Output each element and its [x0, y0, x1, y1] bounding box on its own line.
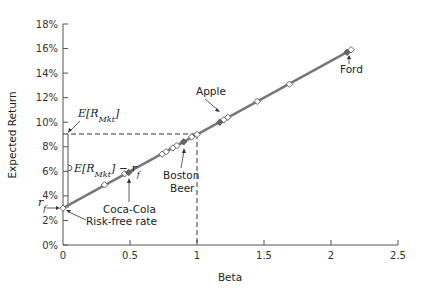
y-tick-label: 6%	[42, 166, 58, 177]
y-tick-label: 8%	[42, 141, 58, 152]
emkt-label: E[RMkt]	[77, 107, 120, 124]
y-tick-label: 14%	[36, 68, 58, 79]
boston-label-line2: Beer	[170, 182, 195, 194]
premium-label: E[RMkt] − rf	[73, 162, 142, 179]
risk-free-label: Risk-free rate	[86, 215, 157, 227]
y-tick-label: 16%	[36, 43, 58, 54]
x-tick-labels: 00.511.522.5	[60, 250, 406, 261]
boston-label-line1: Boston	[163, 169, 199, 181]
y-tick-label: 10%	[36, 117, 58, 128]
y-axis-label: Expected Return	[6, 91, 18, 178]
x-tick-label: 1	[194, 250, 200, 261]
y-tick-label: 4%	[42, 190, 58, 201]
ford-label: Ford	[340, 63, 363, 75]
y-tick-label: 0%	[42, 240, 58, 251]
x-axis-label: Beta	[218, 271, 242, 283]
x-tick-label: 2	[328, 250, 334, 261]
y-tick-labels: 0%2%4%6%8%10%12%14%16%18%	[36, 19, 58, 251]
y-tick-label: 2%	[42, 215, 58, 226]
premium-brace	[68, 165, 72, 171]
x-tick-label: 1.5	[256, 250, 272, 261]
coca-cola-label: Coca-Cola	[103, 203, 156, 215]
x-tick-label: 2.5	[390, 250, 406, 261]
annotation-market-premium: E[RMkt] − rf	[73, 162, 142, 179]
annotation-boston-beer: Boston Beer	[163, 148, 199, 194]
x-tick-label: 0	[60, 250, 66, 261]
y-tick-label: 18%	[36, 19, 58, 30]
security-market-line-chart: 0%2%4%6%8%10%12%14%16%18% 00.511.522.5 E…	[0, 0, 431, 300]
annotation-apple: Apple	[196, 85, 226, 112]
annotation-ford: Ford	[340, 55, 363, 75]
x-tick-label: 0.5	[122, 250, 138, 261]
annotation-expected-market-return: E[RMkt]	[68, 107, 120, 133]
apple-label: Apple	[196, 85, 226, 97]
annotation-coca-cola: Coca-Cola	[103, 178, 156, 215]
y-tick-label: 12%	[36, 92, 58, 103]
